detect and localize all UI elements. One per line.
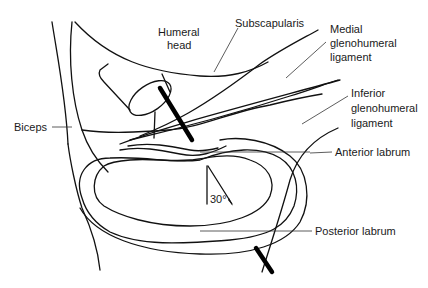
angle-indicator: 30° [207,166,233,206]
label-humeral-head-1: Humeral [158,26,200,38]
glenoid-fossa [94,156,272,226]
label-subscapularis: Subscapularis [235,17,305,29]
ligament-bands [82,30,340,144]
leader-lines [52,28,348,231]
label-inferior-gh-1: Inferior [351,87,386,99]
label-medial-gh-1: Medial [330,23,362,35]
label-medial-gh-3: ligament [330,51,372,63]
posterior-outline [262,128,338,272]
label-humeral-head-2: head [167,39,191,51]
label-biceps: Biceps [14,121,48,133]
label-inferior-gh-2: glenohumeral [351,102,418,114]
label-anterior-labrum: Anterior labrum [335,146,410,158]
label-medial-gh-2: glenohumeral [330,37,397,49]
label-inferior-gh-3: ligament [351,117,393,129]
label-posterior-labrum: Posterior labrum [315,225,396,237]
shoulder-anatomy-diagram: 30° Humeral head Subscapularis Medial gl… [0,0,428,288]
probe-instrument-lower [256,248,272,272]
humeral-outline-lower [68,144,100,270]
angle-label: 30° [210,193,227,205]
